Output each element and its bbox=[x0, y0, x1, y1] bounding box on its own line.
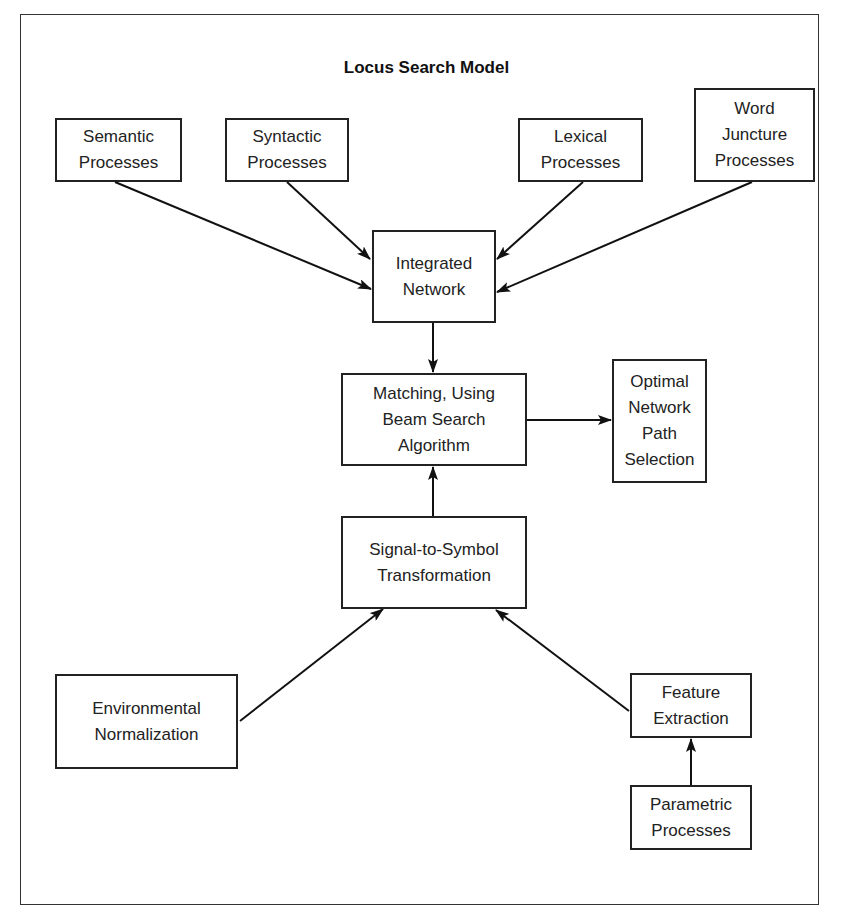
node-syntactic: SyntacticProcesses bbox=[225, 118, 349, 182]
node-label-line: Environmental bbox=[92, 696, 201, 722]
node-label-line: Parametric bbox=[650, 792, 732, 818]
node-label-line: Selection bbox=[625, 447, 695, 473]
node-label-line: Processes bbox=[247, 150, 326, 176]
node-label-line: Word bbox=[734, 96, 774, 122]
node-label-line: Path bbox=[642, 421, 677, 447]
node-parametric: ParametricProcesses bbox=[630, 785, 752, 850]
node-optimal-path: OptimalNetworkPathSelection bbox=[612, 359, 707, 483]
node-label-line: Algorithm bbox=[398, 433, 470, 459]
node-label-line: Network bbox=[403, 277, 465, 303]
node-label-line: Optimal bbox=[630, 369, 689, 395]
node-label-line: Juncture bbox=[722, 122, 787, 148]
edge-feature-extraction-to-signal-to-symbol bbox=[496, 610, 629, 711]
edge-word-juncture-to-integrated-network bbox=[497, 182, 752, 292]
node-feature-extraction: FeatureExtraction bbox=[630, 673, 752, 738]
node-matching: Matching, UsingBeam SearchAlgorithm bbox=[341, 373, 527, 466]
node-label-line: Signal-to-Symbol bbox=[369, 537, 498, 563]
node-label-line: Processes bbox=[715, 148, 794, 174]
node-label-line: Matching, Using bbox=[373, 381, 495, 407]
edge-semantic-to-integrated-network bbox=[115, 182, 371, 289]
node-label-line: Extraction bbox=[653, 706, 729, 732]
edge-lexical-to-integrated-network bbox=[497, 182, 583, 259]
node-label-line: Semantic bbox=[83, 124, 154, 150]
node-label-line: Feature bbox=[662, 680, 721, 706]
node-label-line: Normalization bbox=[95, 722, 199, 748]
node-integrated-network: IntegratedNetwork bbox=[372, 230, 496, 323]
node-label-line: Network bbox=[628, 395, 690, 421]
node-label-line: Transformation bbox=[377, 563, 491, 589]
node-signal-to-symbol: Signal-to-SymbolTransformation bbox=[341, 516, 527, 609]
node-label-line: Integrated bbox=[396, 251, 473, 277]
node-label-line: Processes bbox=[541, 150, 620, 176]
node-label-line: Lexical bbox=[554, 124, 607, 150]
node-label-line: Syntactic bbox=[253, 124, 322, 150]
node-label-line: Beam Search bbox=[383, 407, 486, 433]
node-label-line: Processes bbox=[79, 150, 158, 176]
edge-syntactic-to-integrated-network bbox=[287, 182, 370, 259]
node-lexical: LexicalProcesses bbox=[518, 118, 643, 182]
edge-environmental-to-signal-to-symbol bbox=[240, 609, 383, 721]
node-label-line: Processes bbox=[651, 818, 730, 844]
node-semantic: SemanticProcesses bbox=[55, 118, 182, 182]
node-environmental: EnvironmentalNormalization bbox=[55, 674, 238, 769]
node-word-juncture: WordJunctureProcesses bbox=[694, 88, 815, 182]
